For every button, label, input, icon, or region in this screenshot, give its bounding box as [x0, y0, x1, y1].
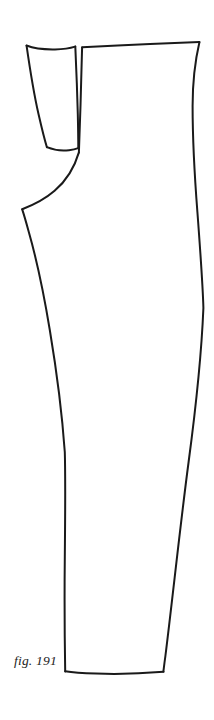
tab-right-edge	[75, 46, 78, 148]
hem-bottom-edge	[65, 671, 163, 674]
tab-top-edge	[27, 46, 76, 50]
inseam-left-edge	[22, 209, 65, 671]
tab-bottom-edge	[47, 147, 78, 150]
trouser-pattern-illustration: fig. 191	[0, 0, 214, 720]
fly-extension-tab	[27, 46, 79, 151]
figure-plate: fig. 191	[0, 0, 214, 720]
side-seam-right-edge	[163, 42, 203, 671]
trouser-body-outline	[22, 42, 203, 674]
fly-front-edge	[79, 47, 82, 152]
tab-left-edge	[27, 46, 47, 147]
waistband-top-edge	[82, 42, 199, 47]
crotch-curve	[22, 153, 79, 210]
figure-caption: fig. 191	[14, 653, 57, 668]
